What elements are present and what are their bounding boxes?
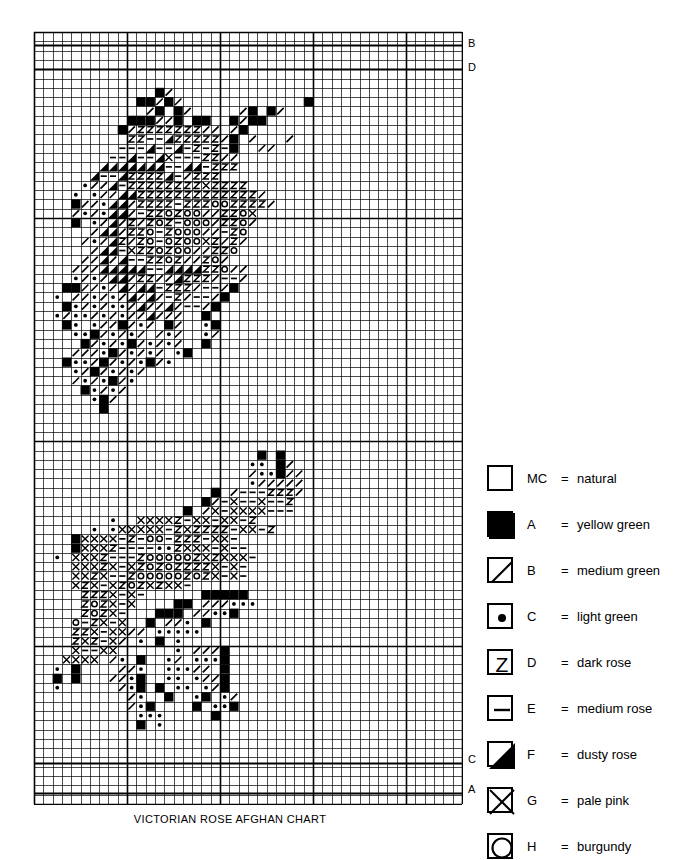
legend-code: C: [527, 609, 561, 624]
legend-equals: =: [561, 701, 577, 716]
legend-color-name: pale pink: [577, 793, 629, 808]
legend-equals: =: [561, 563, 577, 578]
legend-code: F: [527, 747, 561, 762]
legend-color-name: dark rose: [577, 655, 631, 670]
legend-row-c: C=light green: [487, 593, 660, 639]
legend-row-mc: MC=natural: [487, 455, 660, 501]
legend-equals: =: [561, 609, 577, 624]
legend-swatch-dot-icon: [487, 603, 513, 629]
legend-row-d: ZD=dark rose: [487, 639, 660, 685]
legend-equals: =: [561, 471, 577, 486]
legend-code: MC: [527, 471, 561, 486]
legend-swatch-solid-icon: [487, 511, 513, 537]
legend-color-name: yellow green: [577, 517, 650, 532]
legend-swatch-zed-icon: Z: [487, 649, 513, 675]
legend-code: G: [527, 793, 561, 808]
edge-label-c: C: [468, 754, 476, 765]
legend-color-name: medium green: [577, 563, 660, 578]
legend: MC=naturalA=yellow greenB=medium greenC=…: [487, 455, 660, 860]
legend-swatch-dash-icon: [487, 695, 513, 721]
legend-swatch-blank-icon: [487, 465, 513, 491]
legend-swatch-triangle-icon: [487, 741, 513, 767]
legend-equals: =: [561, 839, 577, 854]
legend-color-name: natural: [577, 471, 617, 486]
chart-caption: VICTORIAN ROSE AFGHAN CHART: [0, 813, 460, 825]
stitch-chart-canvas: [33, 31, 463, 805]
legend-equals: =: [561, 517, 577, 532]
legend-equals: =: [561, 655, 577, 670]
legend-code: H: [527, 839, 561, 854]
legend-row-f: F=dusty rose: [487, 731, 660, 777]
edge-label-b: B: [468, 38, 475, 49]
legend-row-h: H=burgundy: [487, 823, 660, 860]
legend-row-e: E=medium rose: [487, 685, 660, 731]
svg-text:Z: Z: [496, 653, 509, 676]
legend-swatch-circle-icon: [487, 833, 513, 859]
legend-row-b: B=medium green: [487, 547, 660, 593]
legend-color-name: dusty rose: [577, 747, 637, 762]
legend-color-name: medium rose: [577, 701, 652, 716]
legend-color-name: burgundy: [577, 839, 631, 854]
legend-code: E: [527, 701, 561, 716]
edge-label-a: A: [468, 784, 475, 795]
legend-row-g: G=pale pink: [487, 777, 660, 823]
chart-grid-area: [33, 31, 463, 805]
edge-label-d: D: [468, 62, 476, 73]
legend-code: D: [527, 655, 561, 670]
legend-swatch-slash-icon: [487, 557, 513, 583]
legend-code: B: [527, 563, 561, 578]
legend-code: A: [527, 517, 561, 532]
legend-equals: =: [561, 747, 577, 762]
legend-row-a: A=yellow green: [487, 501, 660, 547]
legend-equals: =: [561, 793, 577, 808]
legend-color-name: light green: [577, 609, 638, 624]
legend-swatch-cross-icon: [487, 787, 513, 813]
